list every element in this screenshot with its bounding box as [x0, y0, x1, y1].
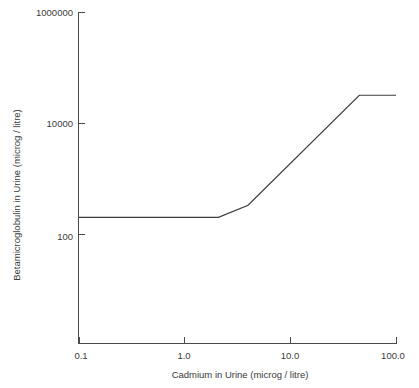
y-tick-label-1000000: 1000000 — [36, 7, 73, 18]
x-tick-label-10-0: 10.0 — [281, 350, 300, 361]
chart-container: 1000000 10000 100 0.1 1.0 10.0 100.0 Cad… — [0, 0, 419, 388]
y-tick-label-10000: 10000 — [47, 118, 73, 129]
chart-axes — [79, 12, 397, 344]
y-tick-label-100: 100 — [57, 231, 73, 242]
series-line-betamicroglobulin — [79, 95, 397, 217]
x-tick-label-1-0: 1.0 — [177, 350, 190, 361]
log-log-line-chart: 1000000 10000 100 0.1 1.0 10.0 100.0 Cad… — [0, 0, 419, 388]
x-tick-label-100-0: 100.0 — [381, 350, 405, 361]
y-axis-ticks — [79, 13, 85, 235]
x-tick-label-0-1: 0.1 — [74, 350, 87, 361]
x-axis-ticks — [80, 337, 397, 344]
y-axis-title: Betamicroglobulin in Urine (microg / lit… — [11, 109, 22, 281]
x-axis-title: Cadmium in Urine (microg / litre) — [172, 369, 309, 380]
